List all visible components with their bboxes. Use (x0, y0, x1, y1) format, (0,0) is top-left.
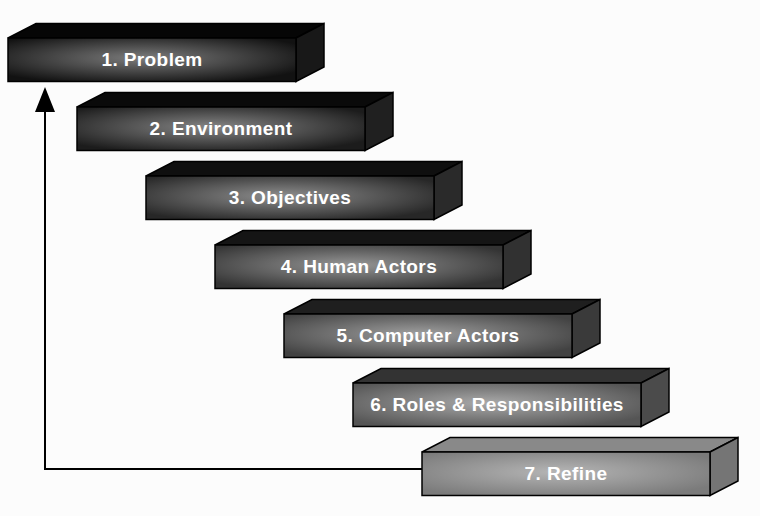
step-box-4: 4. Human Actors (214, 229, 534, 291)
step-box-3: 3. Objectives (145, 160, 465, 222)
step-box-7: 7. Refine (421, 436, 741, 498)
feedback-arrow-up-head (35, 87, 55, 112)
process-staircase-diagram: 1. Problem2. Environment3. Objectives4. … (0, 0, 760, 516)
step-box-2: 2. Environment (76, 91, 396, 153)
step-box-6: 6. Roles & Responsibilities (352, 367, 672, 429)
step-label: 4. Human Actors (215, 245, 503, 288)
step-label: 6. Roles & Responsibilities (353, 383, 641, 426)
feedback-arrow-horizontal-line (44, 468, 423, 470)
step-box-1: 1. Problem (7, 22, 327, 84)
step-label: 7. Refine (422, 452, 710, 495)
step-label: 2. Environment (77, 107, 365, 150)
step-label: 3. Objectives (146, 176, 434, 219)
step-box-5: 5. Computer Actors (283, 298, 603, 360)
feedback-arrow-vertical-line (44, 104, 46, 470)
step-label: 5. Computer Actors (284, 314, 572, 357)
step-label: 1. Problem (8, 38, 296, 81)
